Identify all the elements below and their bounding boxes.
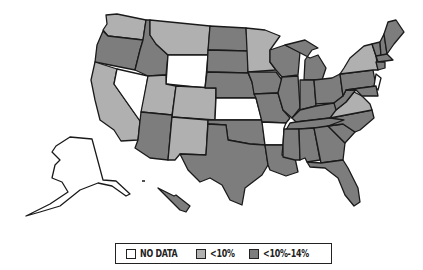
state-IA: [248, 72, 282, 94]
state-SD: [207, 50, 248, 73]
legend-item-lt10: <10%: [196, 247, 241, 260]
legend-label: <10%-14%: [263, 247, 309, 260]
state-ME: [384, 20, 404, 54]
state-WY: [166, 55, 208, 88]
legend-swatch-no-data: [126, 249, 136, 259]
us-choropleth-map: [0, 0, 423, 235]
state-AZ: [135, 112, 172, 160]
state-NY: [340, 44, 378, 74]
state-CO: [172, 86, 216, 120]
legend: NO DATA <10% <10%-14%: [115, 243, 332, 264]
legend-label: <10%: [210, 247, 235, 260]
state-FL: [307, 160, 360, 206]
state-NM: [168, 117, 208, 160]
legend-label: NO DATA: [140, 247, 177, 260]
state-AK: [26, 137, 130, 216]
legend-item-no-data: NO DATA: [126, 247, 187, 260]
legend-item-10to14: <10%-14%: [249, 247, 320, 260]
state-KS: [215, 98, 262, 120]
legend-swatch-10to14: [249, 249, 259, 259]
state-IN: [300, 80, 316, 110]
state-CT: [376, 62, 385, 70]
state-HI: [142, 181, 190, 212]
state-MS: [283, 129, 300, 160]
state-MA: [376, 54, 393, 62]
state-AR: [262, 122, 286, 145]
legend-swatch-lt10: [196, 249, 206, 259]
state-ND: [208, 26, 248, 51]
